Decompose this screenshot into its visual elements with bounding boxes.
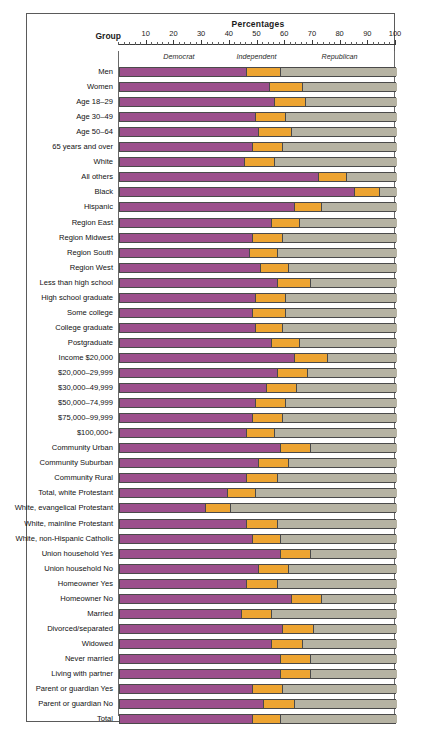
stacked-bar xyxy=(119,473,396,483)
axis-tick-minor xyxy=(245,42,246,45)
chart-row: Region South xyxy=(119,246,396,261)
bar-segment-republican xyxy=(278,474,397,482)
bar-segment-democrat xyxy=(120,459,259,467)
bar-segment-independent xyxy=(247,68,280,76)
stacked-bar xyxy=(119,293,396,303)
bar-segment-republican xyxy=(311,550,397,558)
bar-segment-independent xyxy=(259,565,289,573)
chart-row: Hispanic xyxy=(119,200,396,215)
stacked-bar xyxy=(119,443,396,453)
chart-row: Income $20,000 xyxy=(119,351,396,366)
row-label: Married xyxy=(0,609,113,619)
bar-segment-democrat xyxy=(120,173,319,181)
stacked-bar xyxy=(119,549,396,559)
bar-segment-independent xyxy=(278,279,311,287)
bar-segment-democrat xyxy=(120,640,272,648)
bar-segment-republican xyxy=(303,83,397,91)
axis-tick-minor xyxy=(118,42,119,45)
row-label: White, evangelical Protestant xyxy=(0,503,113,513)
row-label: Community Suburban xyxy=(0,458,113,468)
stacked-bar xyxy=(119,353,396,363)
axis-tick-minor xyxy=(157,42,158,45)
bar-segment-democrat xyxy=(120,414,253,422)
bar-segment-republican xyxy=(281,68,397,76)
bar-segment-independent xyxy=(253,234,283,242)
bar-segment-democrat xyxy=(120,264,261,272)
axis-tick-major xyxy=(201,40,202,45)
bar-segment-republican xyxy=(286,309,397,317)
stacked-bar xyxy=(119,368,396,378)
row-label: 65 years and over xyxy=(0,142,113,152)
chart-row: High school graduate xyxy=(119,291,396,306)
bar-segment-democrat xyxy=(120,715,253,723)
axis-tick-minor xyxy=(301,42,302,45)
axis-tick-minor xyxy=(345,42,346,45)
group-column-header: Group xyxy=(37,31,121,41)
bar-segment-democrat xyxy=(120,128,259,136)
chart-row: Age 18–29 xyxy=(119,95,396,110)
axis-tick-major xyxy=(173,40,174,45)
x-axis: 102030405060708090100 xyxy=(118,29,395,51)
bar-segment-democrat xyxy=(120,354,295,362)
row-label: Never married xyxy=(0,654,113,664)
stacked-bar xyxy=(119,428,396,438)
bar-segment-independent xyxy=(272,640,302,648)
bar-segment-democrat xyxy=(120,399,256,407)
bar-segment-republican xyxy=(272,610,397,618)
bar-segment-democrat xyxy=(120,234,253,242)
bar-segment-democrat xyxy=(120,489,228,497)
axis-tick-label: 20 xyxy=(169,29,177,38)
bar-segment-republican xyxy=(278,580,397,588)
bar-segment-democrat xyxy=(120,655,281,663)
axis-tick-label: 80 xyxy=(335,29,343,38)
bar-segment-democrat xyxy=(120,219,272,227)
bar-segment-democrat xyxy=(120,98,275,106)
axis-tick-minor xyxy=(190,42,191,45)
bar-segment-independent xyxy=(272,219,300,227)
bar-segment-republican xyxy=(283,234,397,242)
bar-segment-democrat xyxy=(120,83,270,91)
chart-row: Postgraduate xyxy=(119,336,396,351)
stacked-bar xyxy=(119,594,396,604)
chart-row: Community Urban xyxy=(119,441,396,456)
bar-segment-democrat xyxy=(120,444,281,452)
bar-segment-republican xyxy=(286,294,397,302)
row-label: Age 30–49 xyxy=(0,112,113,122)
stacked-bar xyxy=(119,263,396,273)
chart-row: White, non-Hispanic Catholic xyxy=(119,532,396,547)
axis-tick-minor xyxy=(223,42,224,45)
chart-row: Widowed xyxy=(119,637,396,652)
row-label: High school graduate xyxy=(0,293,113,303)
stacked-bar xyxy=(119,97,396,107)
row-label: Region East xyxy=(0,218,113,228)
axis-tick-minor xyxy=(334,42,335,45)
chart-row: Never married xyxy=(119,652,396,667)
bar-segment-independent xyxy=(256,324,284,332)
axis-tick-minor xyxy=(362,42,363,45)
row-label: Living with partner xyxy=(0,669,113,679)
chart-row: Union household Yes xyxy=(119,547,396,562)
bar-segment-republican xyxy=(311,670,397,678)
axis-tick-minor xyxy=(378,42,379,45)
bar-segment-independent xyxy=(245,158,275,166)
bar-segment-independent xyxy=(270,83,303,91)
axis-tick-label: 70 xyxy=(308,29,316,38)
stacked-bar xyxy=(119,202,396,212)
row-label: All others xyxy=(0,172,113,182)
bar-segment-republican xyxy=(295,700,397,708)
axis-tick-minor xyxy=(384,42,385,45)
bar-segment-independent xyxy=(228,489,256,497)
row-label: $50,000–74,999 xyxy=(0,398,113,408)
chart-row: All others xyxy=(119,170,396,185)
bar-segment-republican xyxy=(311,279,397,287)
stacked-bar xyxy=(119,519,396,529)
bar-segment-republican xyxy=(300,339,397,347)
axis-tick-minor xyxy=(351,42,352,45)
bar-segment-republican xyxy=(283,414,397,422)
axis-tick-minor xyxy=(218,42,219,45)
axis-tick-minor xyxy=(135,42,136,45)
axis-tick-minor xyxy=(268,42,269,45)
stacked-bar xyxy=(119,338,396,348)
bar-segment-democrat xyxy=(120,625,283,633)
chart-row: Some college xyxy=(119,306,396,321)
